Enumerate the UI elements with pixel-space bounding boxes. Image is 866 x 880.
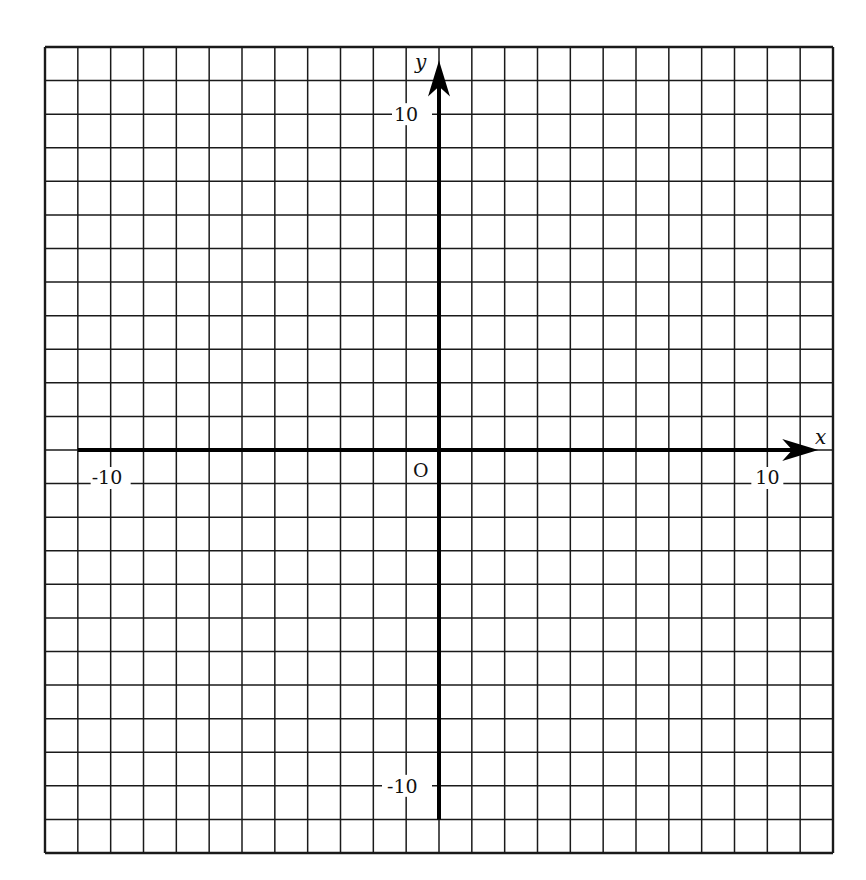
- x-tick-label-10: 10: [755, 466, 779, 488]
- coordinate-grid: x y O -10 10 10 -10: [0, 0, 866, 880]
- x-tick-label-neg10: -10: [92, 466, 123, 488]
- y-axis-label: y: [414, 50, 427, 74]
- origin-label: O: [413, 459, 429, 481]
- x-axis-label: x: [815, 425, 826, 449]
- axes: [78, 60, 818, 819]
- y-tick-label-neg10: -10: [387, 775, 418, 797]
- y-tick-label-10: 10: [394, 103, 418, 125]
